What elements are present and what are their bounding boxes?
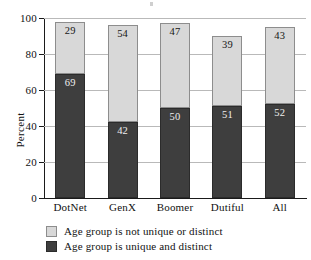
chart-legend: Age group is not unique or distinct Age … xyxy=(46,224,223,254)
bar-segment-light: 47 xyxy=(160,23,190,108)
bar-segment-dark: 50 xyxy=(160,108,190,198)
plot-area: 020406080100 69294254504751395243 xyxy=(44,18,306,198)
bar-value-label: 42 xyxy=(117,126,128,137)
x-axis-tick-label: GenX xyxy=(96,202,148,213)
bar-segment-dark: 69 xyxy=(55,74,85,198)
x-axis-line xyxy=(44,198,307,199)
legend-item: Age group is not unique or distinct xyxy=(46,224,223,239)
bar-value-label: 43 xyxy=(274,31,285,42)
bar-value-label: 51 xyxy=(222,110,233,121)
y-axis-title: Percent xyxy=(14,112,26,147)
x-axis-tick-label: Dutiful xyxy=(201,202,253,213)
legend-item: Age group is unique and distinct xyxy=(46,239,223,254)
bar-segment-light: 43 xyxy=(265,27,295,104)
bar-segment-light: 54 xyxy=(108,25,138,122)
bar-value-label: 69 xyxy=(65,78,76,89)
y-axis-tick-label: 40 xyxy=(26,121,37,132)
y-axis-tick-label: 100 xyxy=(20,13,37,24)
legend-swatch-light-icon xyxy=(46,226,57,237)
bar-value-label: 39 xyxy=(222,40,233,51)
y-axis-tick-label: 0 xyxy=(31,193,37,204)
y-axis-tick-label: 80 xyxy=(26,49,37,60)
stacked-bar-chart: Percent 020406080100 6929425450475139524… xyxy=(0,0,311,260)
bar-segment-dark: 52 xyxy=(265,104,295,198)
bar-value-label: 52 xyxy=(274,108,285,119)
x-axis-tick-label: Boomer xyxy=(149,202,201,213)
bar-group: 4254 xyxy=(108,25,138,198)
bar-value-label: 47 xyxy=(170,27,181,38)
bar-group: 5047 xyxy=(160,23,190,198)
bars-layer: 69294254504751395243 xyxy=(44,18,306,198)
bar-segment-dark: 42 xyxy=(108,122,138,198)
legend-item-label: Age group is unique and distinct xyxy=(64,241,212,252)
scan-artifact xyxy=(150,2,153,6)
y-axis-tick-label: 60 xyxy=(26,85,37,96)
bar-value-label: 29 xyxy=(65,26,76,37)
bar-segment-light: 39 xyxy=(212,36,242,106)
bar-segment-light: 29 xyxy=(55,22,85,74)
legend-item-label: Age group is not unique or distinct xyxy=(64,226,223,237)
x-axis-tick-label: All xyxy=(254,202,306,213)
y-axis-tick xyxy=(39,198,44,199)
bar-value-label: 50 xyxy=(170,112,181,123)
bar-segment-dark: 51 xyxy=(212,106,242,198)
x-axis-tick-label: DotNet xyxy=(44,202,96,213)
bar-value-label: 54 xyxy=(117,29,128,40)
legend-swatch-dark-icon xyxy=(46,241,57,252)
y-axis-tick-label: 20 xyxy=(26,157,37,168)
bar-group: 6929 xyxy=(55,22,85,198)
bar-group: 5243 xyxy=(265,27,295,198)
bar-group: 5139 xyxy=(212,36,242,198)
